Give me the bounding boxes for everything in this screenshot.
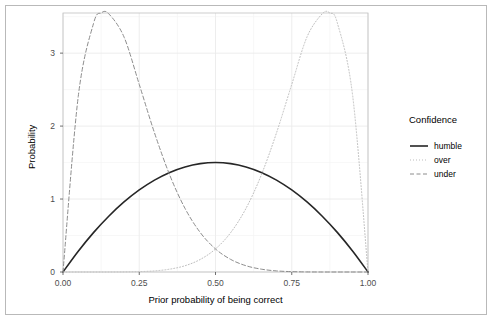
x-tick-label-3: 0.75	[283, 278, 300, 288]
legend-item-humble[interactable]: humble	[434, 141, 462, 151]
y-tick-label-2: 2	[50, 121, 55, 131]
x-tick-label-1: 0.25	[131, 278, 148, 288]
y-tick-label-1: 1	[50, 194, 55, 204]
legend-item-under[interactable]: under	[434, 169, 456, 179]
x-tick-label-0: 0.00	[55, 278, 72, 288]
y-tick-label-0: 0	[50, 267, 55, 277]
legend-item-over[interactable]: over	[434, 155, 451, 165]
figure-container: 0.00 0.25 0.50 0.75 1.00 0 1 2 3 Prior p…	[0, 0, 494, 321]
x-tick-label-2: 0.50	[207, 278, 224, 288]
x-tick-label-4: 1.00	[360, 278, 377, 288]
y-axis-title: Probability	[26, 124, 37, 168]
y-tick-label-3: 3	[50, 48, 55, 58]
chart-plot-area	[0, 0, 494, 321]
legend-key-glyphs	[410, 146, 428, 174]
x-axis-title: Prior probability of being correct	[148, 294, 282, 305]
legend-title: Confidence	[409, 114, 457, 125]
